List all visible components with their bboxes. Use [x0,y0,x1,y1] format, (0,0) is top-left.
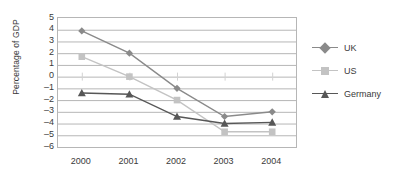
data-point-us-2001 [126,73,133,80]
x-axis-tick-label-2001: 2001 [104,156,152,166]
legend-key-germany [312,87,338,101]
legend-item-germany[interactable]: Germany [312,82,398,105]
y-axis-tick-label: 2 [32,48,54,57]
legend-item-uk[interactable]: UK [312,36,398,59]
plot-svg [58,18,296,147]
data-point-us-2002 [174,97,181,104]
chart-legend: UKUSGermany [312,36,398,105]
y-axis-tick-label: 0 [32,71,54,80]
x-axis-tick-label-2002: 2002 [152,156,200,166]
y-axis-tick-label: –1 [32,83,54,92]
chart-container: Percentage of GDP 543210–1–2–3–4–5–6 200… [0,0,398,187]
x-axis-tick-label-2003: 2003 [200,156,248,166]
y-axis-tick-label: –5 [32,130,54,139]
y-axis-tick-label: 4 [32,24,54,33]
legend-square-marker-icon [321,67,329,75]
plot-area [57,17,297,148]
y-axis-tick-label: –4 [32,118,54,127]
x-axis-tick-label-2004: 2004 [247,156,295,166]
data-point-uk-2000 [78,27,85,34]
legend-key-us [312,64,338,78]
y-axis-tick-label: –3 [32,106,54,115]
legend-diamond-marker-icon [319,42,330,53]
legend-label-uk: UK [338,43,357,53]
x-axis-tick-label-2000: 2000 [57,156,105,166]
legend-key-uk [312,41,338,55]
data-point-uk-2003 [221,113,228,120]
legend-triangle-marker-icon [321,90,329,98]
legend-label-germany: Germany [338,89,381,99]
legend-item-us[interactable]: US [312,59,398,82]
y-axis-tick-label: 3 [32,36,54,45]
data-point-germany-2002 [173,113,181,120]
y-axis-tick-label: 1 [32,59,54,68]
data-point-us-2003 [221,128,228,135]
y-axis-tick-label: –2 [32,95,54,104]
data-point-uk-2004 [269,108,276,115]
data-point-us-2004 [269,128,276,135]
y-axis-tick-label: 5 [32,13,54,22]
y-axis-tick-label: –6 [32,142,54,151]
y-axis-tick-labels: 543210–1–2–3–4–5–6 [28,0,54,187]
y-axis-title: Percentage of GDP [11,0,21,117]
data-point-us-2000 [79,53,86,60]
legend-label-us: US [338,66,357,76]
